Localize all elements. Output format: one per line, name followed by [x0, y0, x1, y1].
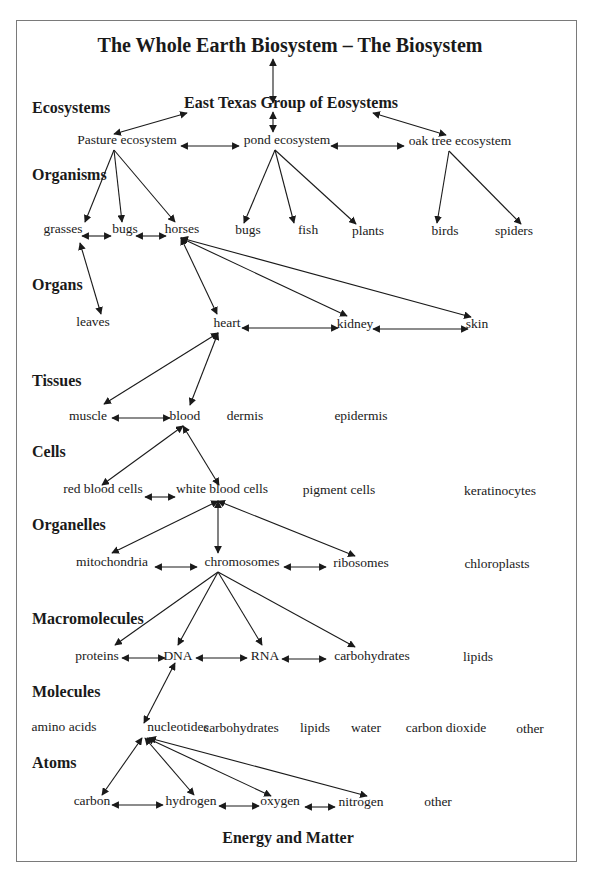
level-label-organisms: Organisms	[32, 167, 107, 183]
level-label-tissues: Tissues	[32, 373, 82, 389]
node-other1: other	[516, 722, 544, 736]
node-heart: heart	[214, 316, 241, 330]
node-other2: other	[424, 795, 452, 809]
node-bugs1: bugs	[112, 222, 138, 236]
node-chloro: chloroplasts	[464, 557, 529, 571]
level-label-cells: Cells	[32, 444, 66, 460]
node-hydrogen: hydrogen	[166, 794, 217, 808]
node-carbs2: carbohydrates	[203, 721, 279, 735]
node-grasses: grasses	[44, 222, 83, 236]
node-lipids2: lipids	[300, 721, 330, 735]
node-muscle: muscle	[69, 409, 107, 423]
node-bugs2: bugs	[235, 223, 261, 237]
node-pond: pond ecosystem	[244, 133, 331, 147]
node-oxygen: oxygen	[260, 794, 300, 808]
node-ribo: ribosomes	[333, 556, 389, 570]
level-label-atoms: Atoms	[32, 755, 76, 771]
node-spiders: spiders	[495, 224, 533, 238]
level-label-molecules: Molecules	[32, 684, 100, 700]
level-label-macromolecules: Macromolecules	[32, 611, 144, 627]
node-blood: blood	[170, 409, 201, 423]
node-rbc: red blood cells	[63, 482, 142, 496]
footer-label: Energy and Matter	[222, 830, 354, 846]
node-fish: fish	[298, 223, 318, 237]
node-dna: DNA	[163, 649, 192, 663]
level-label-ecosystems: Ecosystems	[32, 100, 110, 116]
node-epidermis: epidermis	[334, 409, 387, 423]
node-carbon: carbon	[74, 794, 111, 808]
node-chromo: chromosomes	[205, 555, 280, 569]
node-wbc: white blood cells	[176, 482, 268, 496]
node-nitrogen: nitrogen	[339, 795, 384, 809]
node-nucleo: nucleotides	[147, 720, 208, 734]
level-label-organelles: Organelles	[32, 517, 106, 533]
node-lipids1: lipids	[463, 650, 493, 664]
node-leaves: leaves	[76, 315, 110, 329]
node-plants: plants	[352, 224, 384, 238]
node-proteins: proteins	[75, 649, 119, 663]
node-pigment: pigment cells	[303, 483, 375, 497]
diagram-title: The Whole Earth Biosystem – The Biosyste…	[98, 35, 483, 55]
node-skin: skin	[466, 317, 489, 331]
node-co2: carbon dioxide	[406, 721, 487, 735]
group-heading: East Texas Group of Eosystems	[184, 95, 398, 111]
node-amino: amino acids	[32, 720, 97, 734]
node-birds: birds	[432, 224, 459, 238]
node-oak: oak tree ecosystem	[409, 134, 512, 148]
node-kidney: kidney	[337, 317, 374, 331]
node-horses: horses	[165, 222, 200, 236]
node-mito: mitochondria	[76, 555, 148, 569]
node-rna: RNA	[251, 649, 280, 663]
node-carbs1: carbohydrates	[334, 649, 410, 663]
node-keratinocytes: keratinocytes	[464, 484, 536, 498]
node-pasture: Pasture ecosystem	[77, 133, 176, 147]
node-dermis: dermis	[227, 409, 264, 423]
node-water: water	[351, 721, 381, 735]
level-label-organs: Organs	[32, 277, 83, 293]
